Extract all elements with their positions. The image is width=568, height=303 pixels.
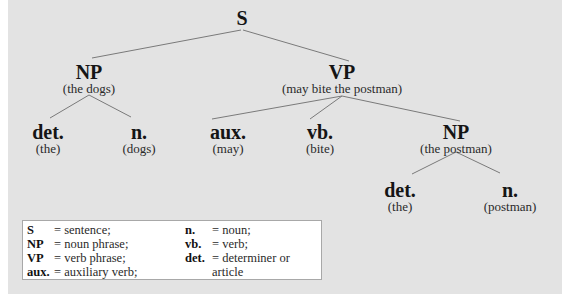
node-label: VP xyxy=(282,62,402,82)
node-example: (dogs) xyxy=(122,142,155,156)
node-label: n. xyxy=(484,180,537,200)
legend-key: S xyxy=(27,223,54,237)
node-label: vb. xyxy=(306,122,334,142)
legend-key: vb. xyxy=(185,237,212,251)
node-verb: vb. (bite) xyxy=(306,122,334,156)
node-example: (the postman) xyxy=(420,142,492,156)
node-verb-phrase: VP (may bite the postman) xyxy=(282,62,402,96)
legend-row: S = sentence; xyxy=(27,223,137,237)
node-label: det. xyxy=(32,122,64,142)
node-example: (the dogs) xyxy=(63,82,115,96)
legend-value: = noun; xyxy=(212,223,251,237)
legend-value: = verb; xyxy=(212,237,248,251)
legend-value: = sentence; xyxy=(54,223,111,237)
node-label: aux. xyxy=(210,122,246,142)
branch-s-np xyxy=(92,30,241,58)
branch-s-vp xyxy=(243,30,349,61)
node-object-noun: n. (postman) xyxy=(484,180,537,214)
node-label: NP xyxy=(420,122,492,142)
node-object-noun-phrase: NP (the postman) xyxy=(420,122,492,156)
node-label: NP xyxy=(63,62,115,82)
legend-row: NP = noun phrase; xyxy=(27,237,137,251)
legend-row: det. = determiner or xyxy=(185,251,290,265)
node-determiner: det. (the) xyxy=(32,122,64,156)
legend-row: n. = noun; xyxy=(185,223,290,237)
branch-vp-aux xyxy=(212,96,342,119)
legend-key: VP xyxy=(27,251,54,265)
legend-box: S = sentence; NP = noun phrase; VP = ver… xyxy=(22,220,322,280)
node-object-determiner: det. (the) xyxy=(384,180,416,214)
legend-key: n. xyxy=(185,223,212,237)
legend-column-right: n. = noun; vb. = verb; det. = determiner… xyxy=(185,223,290,279)
legend-key xyxy=(185,265,212,279)
node-label: n. xyxy=(122,122,155,142)
legend-row: article xyxy=(185,265,290,279)
legend-value: = determiner or xyxy=(212,251,290,265)
node-label: S xyxy=(236,8,247,28)
node-noun-phrase: NP (the dogs) xyxy=(63,62,115,96)
node-example: (may bite the postman) xyxy=(282,82,402,96)
legend-row: VP = verb phrase; xyxy=(27,251,137,265)
branch-vp-np xyxy=(342,96,460,121)
legend-value: = verb phrase; xyxy=(54,251,126,265)
legend-value: = auxiliary verb; xyxy=(54,265,137,279)
legend-key: aux. xyxy=(27,265,54,279)
node-label: det. xyxy=(384,180,416,200)
node-example: (bite) xyxy=(306,142,334,156)
legend-key: det. xyxy=(185,251,212,265)
node-noun: n. (dogs) xyxy=(122,122,155,156)
node-example: (the) xyxy=(32,142,64,156)
branch-np-n xyxy=(89,95,131,117)
legend-row: aux. = auxiliary verb; xyxy=(27,265,137,279)
node-auxiliary: aux. (may) xyxy=(210,122,246,156)
legend-value: = noun phrase; xyxy=(54,237,128,251)
node-example: (may) xyxy=(210,142,246,156)
legend-value: article xyxy=(212,265,243,279)
branch-np-det xyxy=(50,95,89,118)
legend-key: NP xyxy=(27,237,54,251)
node-sentence: S xyxy=(236,8,247,28)
legend-column-left: S = sentence; NP = noun phrase; VP = ver… xyxy=(27,223,137,279)
node-example: (postman) xyxy=(484,200,537,214)
legend-row: vb. = verb; xyxy=(185,237,290,251)
node-example: (the) xyxy=(384,200,416,214)
branch-vp-vb xyxy=(310,96,342,119)
